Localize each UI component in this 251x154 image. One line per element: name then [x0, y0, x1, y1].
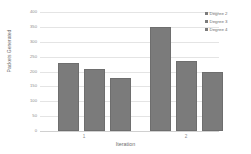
bar-iteration2-degree4	[202, 72, 223, 131]
y-tick-400: 400	[22, 10, 37, 14]
legend-item-degree-4: Degree 4	[205, 25, 249, 33]
legend-swatch-icon	[205, 28, 208, 31]
bar-iteration1-degree2	[58, 63, 79, 131]
gridline-400	[40, 12, 219, 13]
legend-label: Degree 3	[210, 19, 228, 24]
legend-swatch-icon	[205, 12, 208, 15]
y-tick-300: 300	[22, 40, 37, 44]
legend: Degree 2 Degree 3 Degree 4	[205, 9, 249, 33]
plot-area	[40, 12, 219, 131]
bar-iteration1-degree4	[110, 78, 131, 131]
legend-item-degree-2: Degree 2	[205, 9, 249, 17]
y-tick-100: 100	[22, 99, 37, 103]
y-tick-200: 200	[22, 70, 37, 74]
bar-iteration1-degree3	[84, 69, 105, 131]
x-category-2: 2	[176, 134, 196, 139]
y-tick-250: 250	[22, 55, 37, 59]
x-axis-title: Iteration	[0, 141, 251, 147]
y-axis-title: Packets Generated	[6, 11, 12, 91]
legend-swatch-icon	[205, 20, 208, 23]
y-tick-50: 50	[22, 114, 37, 118]
y-tick-0: 0	[22, 129, 37, 133]
bar-chart: 400 350 300 250 200 150 100 50 0 Packets…	[0, 0, 251, 154]
gridline-300	[40, 42, 219, 43]
gridline-350	[40, 27, 219, 28]
legend-label: Degree 2	[210, 11, 228, 16]
gridline-250	[40, 57, 219, 58]
x-category-1: 1	[74, 134, 94, 139]
y-tick-350: 350	[22, 25, 37, 29]
bar-iteration2-degree3	[176, 61, 197, 131]
bar-iteration2-degree2	[150, 27, 171, 131]
legend-label: Degree 4	[210, 27, 228, 32]
y-tick-150: 150	[22, 84, 37, 88]
legend-item-degree-3: Degree 3	[205, 17, 249, 25]
